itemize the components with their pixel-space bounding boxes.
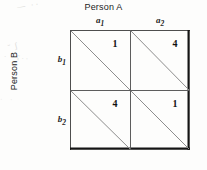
cell-value-b2-a1: 4 bbox=[100, 98, 130, 109]
figure-canvas: — ·· ˘ ʃ · ˙ʕ·· ȷ ·˜ȷ · · Person A Perso… bbox=[0, 0, 207, 170]
column-label-a2: a2 bbox=[130, 15, 190, 28]
row-label-b2-subscript: 2 bbox=[62, 118, 66, 127]
column-label-a1-subscript: 1 bbox=[100, 19, 104, 28]
row-axis-title: Person B bbox=[9, 39, 19, 103]
cell-value-b2-a2: 1 bbox=[160, 98, 190, 109]
column-axis-title: Person A bbox=[0, 2, 207, 12]
cell-value-b1-a1: 1 bbox=[100, 38, 130, 49]
row-label-b1-subscript: 1 bbox=[62, 58, 66, 67]
row-label-b1: b1 bbox=[48, 54, 66, 67]
payoff-matrix: 1 4 4 1 bbox=[70, 30, 190, 150]
column-label-a2-subscript: 2 bbox=[160, 19, 164, 28]
row-label-b2: b2 bbox=[48, 114, 66, 127]
column-label-a1: a1 bbox=[70, 15, 130, 28]
cell-value-b1-a2: 4 bbox=[160, 38, 190, 49]
